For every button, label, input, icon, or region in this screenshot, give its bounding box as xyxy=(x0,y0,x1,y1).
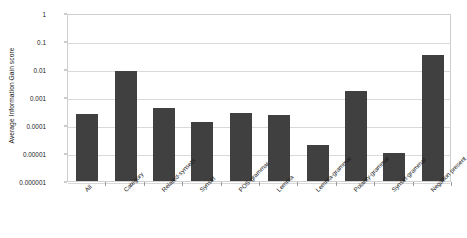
x-axis-tick-mark xyxy=(451,182,452,186)
bar[interactable] xyxy=(230,113,252,181)
y-axis-tick-mark xyxy=(64,154,67,155)
x-axis-tick-mark xyxy=(374,182,375,186)
y-axis-tick-mark xyxy=(64,14,67,15)
y-axis-tick-mark xyxy=(64,70,67,71)
y-axis-tick-label: 0.1 xyxy=(2,39,46,46)
x-axis-tick-mark xyxy=(144,182,145,186)
x-axis-tick-mark xyxy=(105,182,106,186)
bar-slot xyxy=(183,15,221,181)
y-axis-tick-mark xyxy=(64,182,67,183)
x-axis-tick-mark xyxy=(413,182,414,186)
bar-chart: Average Information Gain score 10.10.010… xyxy=(0,0,467,238)
y-axis-tick-label: 0.01 xyxy=(2,67,46,74)
y-axis-tick-label: 0.0001 xyxy=(2,123,46,130)
y-axis-tick-label: 0.000001 xyxy=(2,179,46,186)
y-axis-tick-mark xyxy=(64,42,67,43)
x-axis-tick-mark xyxy=(297,182,298,186)
x-axis-tick-mark xyxy=(336,182,337,186)
y-axis-tick-mark xyxy=(64,126,67,127)
bar[interactable] xyxy=(115,71,137,181)
bar[interactable] xyxy=(76,114,98,181)
bar-slot xyxy=(145,15,183,181)
x-axis-tick-label: All xyxy=(83,183,93,193)
bar[interactable] xyxy=(345,91,367,181)
bar-slot xyxy=(68,15,106,181)
bar-slot xyxy=(337,15,375,181)
bar[interactable] xyxy=(268,115,290,181)
bar-slot xyxy=(298,15,336,181)
bar-slot xyxy=(414,15,452,181)
bar-slot xyxy=(375,15,413,181)
x-axis-tick-mark xyxy=(259,182,260,186)
bar[interactable] xyxy=(153,108,175,181)
x-axis-tick-mark xyxy=(221,182,222,186)
bar-slot xyxy=(106,15,144,181)
plot-area xyxy=(67,14,451,182)
bar-slot xyxy=(260,15,298,181)
y-axis-tick-mark xyxy=(64,98,67,99)
y-axis-tick-label: 0.00001 xyxy=(2,151,46,158)
y-axis-tick-label: 0.001 xyxy=(2,95,46,102)
x-axis-tick-mark xyxy=(182,182,183,186)
bar-slot xyxy=(222,15,260,181)
bar[interactable] xyxy=(191,122,213,181)
y-axis-tick-label: 1 xyxy=(2,11,46,18)
